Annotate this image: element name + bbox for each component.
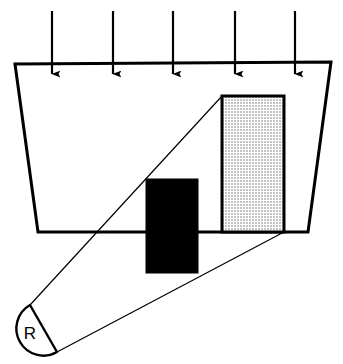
black-target-rect — [146, 179, 198, 273]
radar-sensor-halfdisc — [16, 305, 57, 356]
figure-container: R — [0, 0, 343, 364]
gray-target-rect — [222, 96, 284, 232]
radar-label: R — [24, 324, 36, 343]
technical-diagram: R — [0, 0, 343, 364]
